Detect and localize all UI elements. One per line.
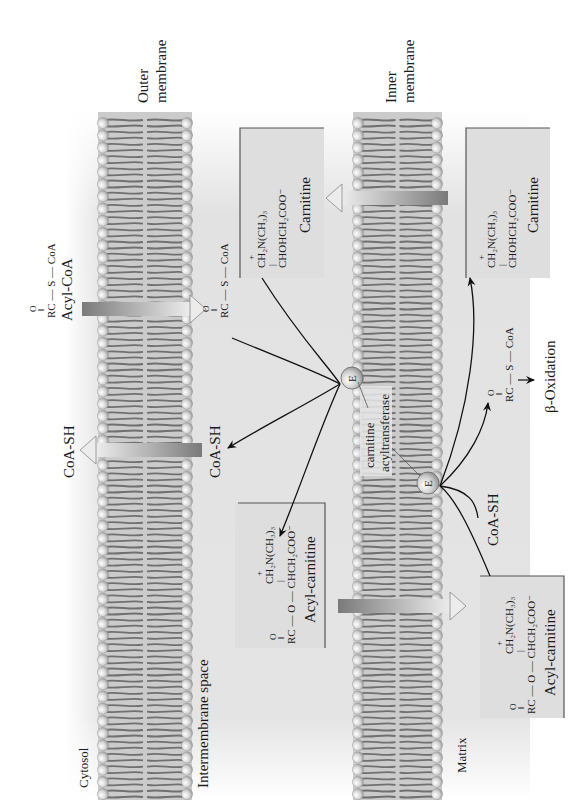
lipid-tail xyxy=(400,241,437,242)
lipid-tail xyxy=(147,138,186,139)
lipid-tail xyxy=(104,406,143,407)
lipid-tail xyxy=(104,186,143,187)
lipid-head xyxy=(352,508,363,519)
lipid-tail xyxy=(104,638,143,639)
lipid-tail xyxy=(147,705,186,706)
lipid-head xyxy=(431,557,442,568)
lipid-tail xyxy=(147,479,186,480)
lipid-tail xyxy=(359,748,396,749)
lipid-tail xyxy=(104,577,143,578)
lipid-head xyxy=(97,715,108,726)
lipid-tail xyxy=(359,284,396,285)
lipid-tail xyxy=(359,638,396,639)
lipid-head xyxy=(352,630,363,641)
lipid-tail xyxy=(147,498,186,499)
lipid-tail xyxy=(147,437,186,438)
svg-text:CH₂N(CH₃)₃: CH₂N(CH₃)₃ xyxy=(485,210,498,268)
lipid-head xyxy=(97,654,108,665)
lipid-tail xyxy=(147,748,186,749)
lipid-head xyxy=(352,496,363,507)
lipid-tail xyxy=(400,394,437,395)
lipid-head xyxy=(181,776,192,787)
lipid-head xyxy=(181,569,192,580)
lipid-tail xyxy=(359,528,396,529)
lipid-tail xyxy=(104,333,143,334)
lipid-tail xyxy=(400,162,437,163)
lipid-tail xyxy=(104,363,143,364)
lipid-head xyxy=(431,544,442,555)
svg-text:RC — O — CHCH₂COO⁻: RC — O — CHCH₂COO⁻ xyxy=(525,595,537,714)
lipid-tail xyxy=(359,778,396,779)
lipid-tail xyxy=(400,150,437,151)
lipid-head xyxy=(97,374,108,385)
lipid-tail xyxy=(147,796,186,797)
lipid-head xyxy=(97,727,108,738)
lipid-head xyxy=(352,227,363,238)
lipid-head xyxy=(181,496,192,507)
lipid-head xyxy=(181,215,192,226)
lipid-head xyxy=(431,215,442,226)
lipid-tail xyxy=(147,424,186,425)
lipid-tail xyxy=(359,516,396,517)
diagram-stage: Cytosol Intermembrane space Matrix Outer… xyxy=(0,0,584,808)
svg-text:CH₂N(CH₃)₃: CH₂N(CH₃)₃ xyxy=(503,596,516,654)
lipid-head xyxy=(352,276,363,287)
lipid-tail xyxy=(359,315,396,316)
lipid-tail xyxy=(400,528,437,529)
lipid-tail xyxy=(359,333,396,334)
lipid-tail xyxy=(147,546,186,547)
lipid-tail xyxy=(147,217,186,218)
lipid-tail xyxy=(359,656,396,657)
lipid-tail xyxy=(359,174,396,175)
lipid-tail xyxy=(104,626,143,627)
lipid-tail xyxy=(104,144,143,145)
lipid-head xyxy=(431,715,442,726)
svg-text:|: | xyxy=(515,650,525,652)
lipid-head xyxy=(181,361,192,372)
lipid-tail xyxy=(147,156,186,157)
label-outer-membrane-1: Outer xyxy=(135,69,151,103)
lipid-tail xyxy=(359,571,396,572)
lipid-head xyxy=(181,593,192,604)
lipid-tail xyxy=(104,339,143,340)
lipid-head xyxy=(181,544,192,555)
lipid-tail xyxy=(147,321,186,322)
lipid-tail xyxy=(400,180,437,181)
lipid-tail xyxy=(147,205,186,206)
lipid-head xyxy=(97,264,108,275)
lipid-head xyxy=(352,178,363,189)
label-coash-ims: CoA-SH xyxy=(207,425,223,478)
lipid-tail xyxy=(147,528,186,529)
lipid-tail xyxy=(359,479,396,480)
lipid-head xyxy=(431,532,442,543)
lipid-tail xyxy=(359,260,396,261)
lipid-tail xyxy=(104,229,143,230)
lipid-tail xyxy=(104,760,143,761)
lipid-head xyxy=(97,776,108,787)
lipid-head xyxy=(352,483,363,494)
lipid-tail xyxy=(400,613,437,614)
lipid-tail xyxy=(400,681,437,682)
lipid-head xyxy=(181,520,192,531)
lipid-tail xyxy=(359,711,396,712)
lipid-head xyxy=(431,361,442,372)
lipid-tail xyxy=(104,772,143,773)
lipid-tail xyxy=(147,681,186,682)
lipid-tail xyxy=(147,516,186,517)
lipid-tail xyxy=(104,711,143,712)
lipid-tail xyxy=(359,723,396,724)
lipid-tail xyxy=(400,339,437,340)
lipid-tail xyxy=(400,351,437,352)
lipid-head xyxy=(181,630,192,641)
lipid-head xyxy=(97,483,108,494)
lipid-tail xyxy=(359,382,396,383)
lipid-head xyxy=(181,203,192,214)
lipid-tail xyxy=(104,491,143,492)
lipid-tail xyxy=(400,650,437,651)
lipid-tail xyxy=(400,290,437,291)
lipid-head xyxy=(431,691,442,702)
lipid-tail xyxy=(400,321,437,322)
lipid-tail xyxy=(147,729,186,730)
label-intermembrane-space: Intermembrane space xyxy=(195,659,211,788)
lipid-tail xyxy=(147,260,186,261)
